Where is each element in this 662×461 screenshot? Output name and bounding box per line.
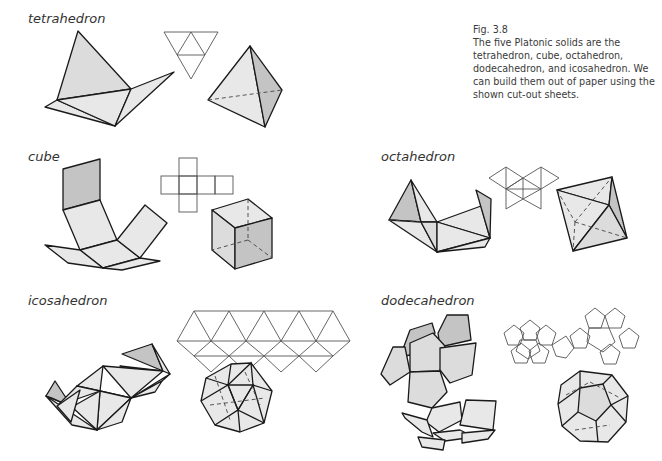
dodecahedron-unfolded: [381, 315, 496, 450]
cube-solid: [212, 199, 272, 269]
dodecahedron-net: [504, 308, 639, 364]
tetrahedron-solid: [208, 46, 282, 127]
cube-unfolded: [45, 159, 167, 270]
icosahedron-unfolded: [46, 344, 170, 430]
platonic-solids-illustration: [0, 0, 662, 461]
dodecahedron-solid: [558, 371, 628, 442]
icosahedron-solid: [201, 363, 272, 432]
octahedron-solid: [557, 177, 627, 251]
icosahedron-net: [177, 311, 350, 372]
tetrahedron-net: [164, 32, 218, 79]
tetrahedron-unfolded: [45, 31, 174, 126]
cube-net: [161, 158, 233, 212]
octahedron-net: [489, 167, 559, 209]
octahedron-unfolded: [389, 180, 491, 252]
